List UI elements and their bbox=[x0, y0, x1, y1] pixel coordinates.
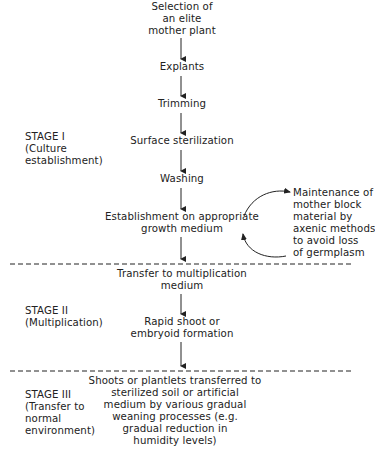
step-explants: Explants bbox=[160, 61, 205, 73]
step-selection: Selection of an elite mother plant bbox=[148, 1, 216, 37]
step-transfer-multiplication: Transfer to multiplication medium bbox=[117, 268, 247, 292]
step-surface-sterilization: Surface sterilization bbox=[130, 135, 234, 147]
step-establishment: Establishment on appropriate growth medi… bbox=[105, 211, 259, 235]
step-trimming: Trimming bbox=[158, 98, 206, 110]
step-shoots-transferred: Shoots or plantlets transferred to steri… bbox=[89, 375, 262, 447]
stage-1-label: STAGE I (Culture establishment) bbox=[25, 131, 103, 167]
stage-3-label: STAGE III (Transfer to normal environmen… bbox=[25, 389, 95, 437]
curved-arrow-from-maintenance bbox=[243, 234, 286, 257]
step-rapid-shoot: Rapid shoot or embryoid formation bbox=[131, 316, 234, 340]
note-maintenance: Maintenance of mother block material by … bbox=[293, 187, 375, 259]
step-washing: Washing bbox=[160, 173, 204, 185]
stage-2-label: STAGE II (Multiplication) bbox=[25, 305, 103, 329]
